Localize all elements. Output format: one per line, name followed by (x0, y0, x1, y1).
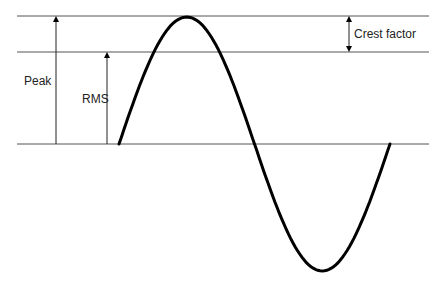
rms-label: RMS (82, 92, 109, 106)
peak-label: Peak (24, 74, 52, 88)
crest-factor-label: Crest factor (354, 27, 416, 41)
crest-factor-diagram: Peak RMS Crest factor (0, 0, 446, 285)
